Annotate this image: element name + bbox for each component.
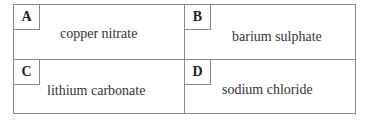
option-letter: A (14, 5, 40, 30)
option-text: lithium carbonate (47, 83, 145, 99)
option-letter: C (14, 60, 40, 85)
answer-options-grid: A copper nitrate B barium sulphate C lit… (13, 4, 356, 114)
option-b[interactable]: B barium sulphate (185, 5, 355, 60)
option-letter: B (185, 5, 211, 30)
option-d[interactable]: D sodium chloride (185, 60, 355, 113)
option-letter: D (185, 60, 211, 85)
option-text: copper nitrate (60, 26, 137, 42)
option-text: sodium chloride (222, 82, 313, 98)
option-text: barium sulphate (232, 29, 322, 45)
option-c[interactable]: C lithium carbonate (14, 60, 185, 113)
option-a[interactable]: A copper nitrate (14, 5, 185, 60)
